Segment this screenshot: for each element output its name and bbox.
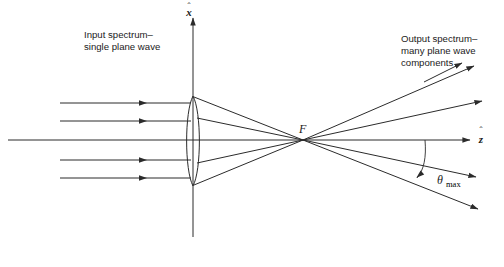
z-axis-label-group: ˆ z (478, 125, 484, 145)
output-ray (303, 140, 476, 177)
focal-point-label: F (298, 122, 307, 136)
theta-symbol: θ (437, 173, 443, 187)
input-ray-arrowhead (139, 175, 147, 180)
output-spectrum-label-line3: components (401, 57, 453, 68)
figure-canvas: Input spectrum– single plane wave Output… (0, 0, 504, 267)
output-spectrum-label-line2: many plane wave (401, 45, 476, 56)
input-ray-arrowhead (139, 118, 147, 123)
optics-ray-diagram: Input spectrum– single plane wave Output… (0, 0, 504, 267)
output-ray (303, 66, 474, 140)
converging-ray (194, 97, 303, 140)
theta-max-label: θ max (437, 173, 461, 189)
theta-max-arc-arrowhead (416, 170, 424, 177)
output-ray (303, 101, 482, 140)
converging-ray (197, 118, 303, 140)
x-axis-label-group: ˆ x (185, 1, 192, 18)
output-ray (303, 140, 478, 209)
theta-subscript-max: max (446, 179, 461, 189)
x-axis-label: x (185, 6, 192, 18)
input-ray-arrowhead (139, 157, 147, 162)
input-spectrum-label-line1: Input spectrum– (84, 29, 153, 40)
converging-ray-bundle (194, 97, 303, 185)
converging-ray (197, 140, 303, 163)
input-ray-arrowhead (139, 100, 147, 105)
input-spectrum-label-line2: single plane wave (84, 41, 160, 52)
converging-ray (194, 140, 303, 185)
z-axis-label: z (478, 133, 484, 145)
output-spectrum-label-line1: Output spectrum– (401, 33, 478, 44)
